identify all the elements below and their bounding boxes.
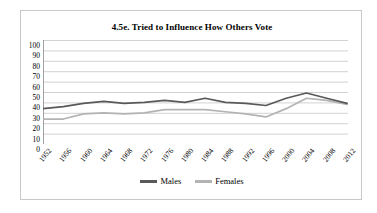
x-tick-label: 1996: [261, 147, 277, 164]
x-tick-label: 1992: [240, 147, 256, 164]
series-line-females: [43, 98, 347, 119]
legend-item-females[interactable]: Females: [195, 177, 243, 186]
x-tick-label: 1956: [58, 147, 74, 164]
plot-area: [43, 40, 348, 144]
legend-swatch-females: [195, 180, 212, 182]
y-tick-label: 50: [33, 94, 41, 102]
y-tick-label: 70: [33, 73, 41, 81]
x-tick-label: 1976: [159, 147, 175, 164]
y-tick-label: 10: [33, 136, 41, 144]
x-tick-label: 1968: [119, 147, 135, 164]
x-tick-label: 1980: [180, 147, 196, 164]
x-tick-label: 2012: [342, 147, 358, 164]
x-tick-label: 2004: [301, 147, 317, 164]
y-tick-label: 90: [33, 53, 41, 61]
x-tick-label: 2000: [281, 147, 297, 164]
y-tick-label: 40: [33, 105, 41, 113]
y-tick-label: 30: [33, 115, 41, 123]
x-tick-label: 1972: [139, 147, 155, 164]
legend-label: Males: [160, 177, 181, 186]
legend-label: Females: [215, 177, 243, 186]
y-tick-label: 60: [33, 84, 41, 92]
y-tick-label: 20: [33, 125, 41, 133]
x-tick-label: 1964: [99, 147, 115, 164]
y-tick-label: 80: [33, 63, 41, 71]
legend-item-males[interactable]: Males: [140, 177, 181, 186]
y-tick-label: 0: [36, 146, 40, 154]
legend-swatch-males: [140, 180, 157, 182]
plot-svg: [43, 40, 348, 144]
y-tick-label: 100: [29, 42, 40, 50]
x-tick-label: 1984: [200, 147, 216, 164]
x-tick-label: 2008: [321, 147, 337, 164]
chart-legend: MalesFemales: [21, 177, 363, 186]
x-tick-label: 1960: [78, 147, 94, 164]
x-tick-label: 1988: [220, 147, 236, 164]
chart-title: 4.5e. Tried to Influence How Others Vote: [21, 22, 363, 32]
chart-container: 4.5e. Tried to Influence How Others Vote…: [20, 10, 362, 200]
y-axis: 1009080706050403020100: [21, 36, 41, 148]
